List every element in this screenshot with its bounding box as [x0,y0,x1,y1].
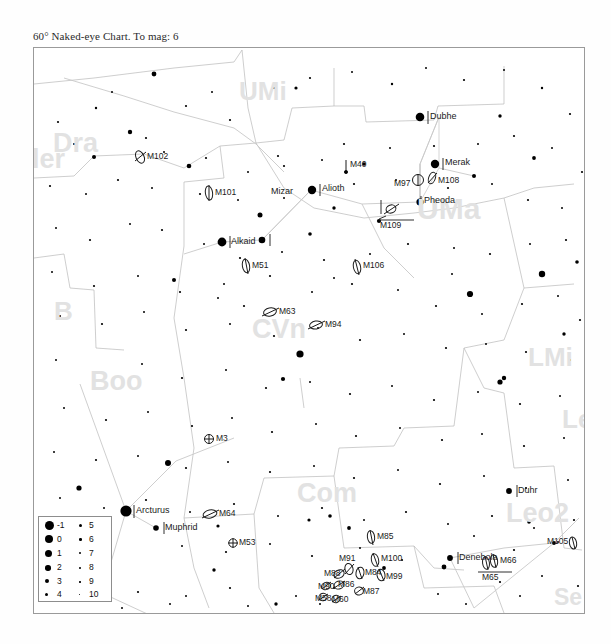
sky-canvas [34,48,584,613]
legend-dot-left [45,550,52,557]
constellation-label-boo: Boo [90,368,142,395]
galaxy-glyph-M101 [204,185,213,201]
dso-label-M3: M3 [216,434,228,443]
constellation-boundaries [34,50,582,613]
dso-label-M108: M108 [438,176,459,185]
star-label-duhr: Duhr [518,486,538,495]
globular-glyph-M53 [228,538,238,548]
galaxy-glyph-M94 [308,320,325,330]
legend-dot-right [79,581,81,583]
dso-label-M94: M94 [325,320,342,329]
legend-dot-left [45,565,51,571]
legend-row: 2 8 [39,560,111,574]
dso-label-M64: M64 [219,509,236,518]
galaxy-glyph-M105 [568,536,577,549]
dso-label-M63: M63 [279,307,296,316]
constellation-label-sex: Se [554,586,582,609]
dso-label-M51: M51 [252,261,269,270]
dso-label-M101: M101 [215,188,236,197]
galaxy-glyph-M91 [344,563,355,576]
star-label-merak: Merak [445,158,470,167]
constellation-label-b: B [54,298,73,324]
dso-label-M109: M109 [380,221,401,230]
constellation-label-com: Com [297,480,357,507]
dso-label-M58: M58 [315,594,332,603]
legend-mag-left: 4 [57,587,62,601]
legend-row: 0 6 [39,532,111,546]
dso-label-M66: M66 [500,556,517,565]
globular-glyph-M3 [204,434,214,444]
legend-mag-left: -1 [57,518,65,532]
nebula-glyph-M97 [413,174,424,186]
dso-label-M90: M90 [318,582,335,591]
dso-label-M40: M40 [350,160,367,169]
legend-dot-left [45,593,48,596]
dso-label-M53: M53 [239,538,256,547]
star-label-alioth: Alioth [322,184,345,193]
sky-chart-frame[interactable]: UMi Dra ler B Boo UMa CVn Com LMi Leo Le… [33,47,585,614]
dso-label-M106: M106 [363,261,384,270]
legend-mag-right: 5 [89,518,94,532]
star-label-muphrid: Muphrid [165,523,198,532]
legend-mag-right: 9 [89,574,94,588]
legend-mag-right: 7 [89,546,94,560]
legend-mag-left: 0 [57,532,62,546]
dso-label-M88: M88 [324,569,341,578]
dso-label-M60: M60 [332,595,349,604]
legend-row: 3 9 [39,574,111,588]
deep-sky-glyphs [134,149,578,603]
legend-dot-left [45,535,53,543]
constellation-label-umi: UMi [239,78,287,104]
legend-dot-right [79,552,81,554]
dso-label-M87: M87 [363,587,380,596]
legend-mag-left: 2 [57,560,62,574]
dso-label-M85: M85 [377,532,394,541]
dso-label-M102: M102 [147,152,168,161]
legend-dot-right [79,524,82,527]
legend-dot-right [79,567,81,569]
double-glyph-M40 [344,160,347,174]
dso-label-M91: M91 [339,554,356,563]
dso-label-M65: M65 [482,573,499,582]
magnitude-legend: -1 5 0 6 1 7 2 8 [38,516,112,602]
legend-mag-right: 8 [89,560,94,574]
page-title: 60° Naked-eye Chart. To mag: 6 [33,30,179,42]
dso-label-M105: M105 [547,537,568,546]
constellation-label-her: ler [33,146,65,173]
legend-mag-left: 3 [57,574,62,588]
dso-label-M86: M86 [338,580,355,589]
galaxy-glyph-M100 [370,553,380,567]
dso-label-M97: M97 [394,179,411,188]
legend-dot-right [79,538,82,541]
galaxy-glyph-M84 [355,567,365,580]
star-chart-page: 60° Naked-eye Chart. To mag: 6 [0,0,611,644]
legend-dot-left [45,521,54,530]
legend-mag-right: 6 [89,532,94,546]
galaxy-glyph-M106 [352,259,362,275]
legend-mag-right: 10 [89,587,98,601]
legend-dot-left [45,579,49,583]
galaxy-glyph-M85 [367,530,376,545]
constellation-label-leo-small: Leo [562,406,585,432]
galaxy-glyph-M108 [427,171,437,185]
constellation-label-leo: Leo2 [506,500,569,527]
legend-row: -1 5 [39,518,111,532]
star-label-mizar: Mizar [271,187,293,196]
star-label-alkaid: Alkaid [231,237,256,246]
star-label-denebola: Denebola [459,553,498,562]
star-label-dubhe: Dubhe [430,112,457,121]
star-label-arcturus: Arcturus [136,506,170,515]
star-field [49,67,583,609]
legend-dot-right [79,594,80,595]
legend-row: 1 7 [39,546,111,560]
constellation-label-lmi: LMi [528,344,573,370]
star-label-pheoda: Pheoda [424,196,455,205]
galaxy-glyph-M102 [134,149,147,164]
constellation-label-cvn: CVn [252,316,306,343]
constellation-figures [64,78,579,613]
dso-label-M84: M84 [365,568,382,577]
galaxy-glyph-M109 [384,204,399,215]
dso-label-M99: M99 [386,572,403,581]
legend-mag-left: 1 [57,546,62,560]
galaxy-glyph-M64 [202,509,219,520]
